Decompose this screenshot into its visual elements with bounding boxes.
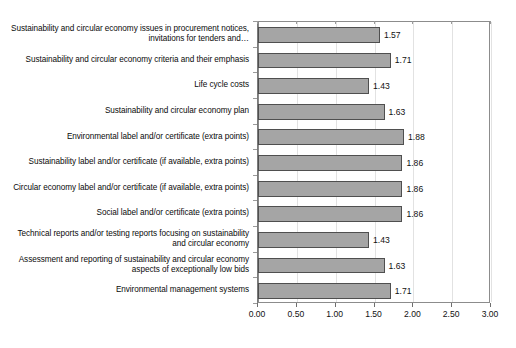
category-label: Environmental label and/or certificate (… — [8, 124, 249, 150]
bar[interactable] — [258, 78, 369, 94]
category-label-text: Technical reports and/or testing reports… — [8, 229, 249, 248]
bar-row[interactable]: 1.86 — [258, 181, 489, 197]
y-tick-mark — [253, 47, 257, 48]
category-label: Technical reports and/or testing reports… — [8, 226, 249, 252]
top-tick-mark — [335, 21, 336, 24]
plot-area: 1.571.711.431.631.881.861.861.861.431.63… — [257, 21, 490, 303]
x-tick-label: 0.00 — [249, 309, 266, 319]
top-tick-mark — [490, 21, 491, 24]
bar-row[interactable]: 1.57 — [258, 27, 489, 43]
x-tick-label: 2.00 — [404, 309, 421, 319]
category-label-text: Sustainability label and/or certificate … — [8, 157, 249, 167]
x-tick-label: 2.50 — [443, 309, 460, 319]
bar-value-label: 1.86 — [402, 158, 423, 168]
left-tick-marks — [253, 21, 258, 303]
top-tick-mark — [412, 21, 413, 24]
bar-row[interactable]: 1.86 — [258, 155, 489, 171]
category-label-text: Circular economy label and/or certificat… — [8, 183, 249, 193]
bar-row[interactable]: 1.63 — [258, 258, 489, 274]
category-label-text: Environmental label and/or certificate (… — [8, 132, 249, 142]
category-label: Sustainability label and/or certificate … — [8, 149, 249, 175]
category-label: Life cycle costs — [8, 72, 249, 98]
top-tick-mark — [374, 21, 375, 24]
x-tick-label: 0.50 — [287, 309, 304, 319]
category-label: Sustainability and circular economy issu… — [8, 21, 249, 47]
bars-layer: 1.571.711.431.631.881.861.861.861.431.63… — [258, 22, 489, 302]
bar-row[interactable]: 1.71 — [258, 53, 489, 69]
bar-value-label: 1.57 — [380, 30, 401, 40]
bar-value-label: 1.43 — [369, 235, 390, 245]
bar-value-label: 1.63 — [385, 261, 406, 271]
y-tick-mark — [253, 252, 257, 253]
bar[interactable] — [258, 155, 402, 171]
category-label: Assessment and reporting of sustainabili… — [8, 252, 249, 278]
y-tick-mark — [253, 200, 257, 201]
bar-row[interactable]: 1.43 — [258, 78, 489, 94]
bar[interactable] — [258, 206, 402, 222]
category-label: Social label and/or certificate (extra p… — [8, 200, 249, 226]
category-label-text: Sustainability and circular economy crit… — [8, 55, 249, 65]
bar[interactable] — [258, 53, 391, 69]
category-label-text: Life cycle costs — [8, 80, 249, 90]
x-axis-labels: 0.000.501.001.502.002.503.00 — [257, 309, 490, 327]
bar-row[interactable]: 1.86 — [258, 206, 489, 222]
category-axis: Sustainability and circular economy issu… — [8, 21, 253, 303]
x-tick-mark — [374, 303, 375, 307]
bar-value-label: 1.86 — [402, 209, 423, 219]
x-tick-mark — [335, 303, 336, 307]
bar-chart: Sustainability and circular economy issu… — [0, 0, 516, 348]
category-label-text: Assessment and reporting of sustainabili… — [8, 255, 249, 274]
x-tick-label: 1.00 — [326, 309, 343, 319]
bar[interactable] — [258, 27, 380, 43]
y-tick-mark — [253, 72, 257, 73]
x-tick-mark — [257, 303, 258, 307]
y-tick-mark — [253, 277, 257, 278]
bar[interactable] — [258, 129, 404, 145]
category-label-text: Sustainability and circular economy plan — [8, 106, 249, 116]
bar-row[interactable]: 1.88 — [258, 129, 489, 145]
bar-row[interactable]: 1.71 — [258, 283, 489, 299]
bar-row[interactable]: 1.43 — [258, 232, 489, 248]
top-tick-mark — [296, 21, 297, 24]
top-tick-marks — [257, 21, 490, 25]
bar-value-label: 1.63 — [385, 107, 406, 117]
y-tick-mark — [253, 226, 257, 227]
bar-row[interactable]: 1.63 — [258, 104, 489, 120]
gridline-3.00 — [491, 22, 492, 302]
category-label: Circular economy label and/or certificat… — [8, 175, 249, 201]
bar[interactable] — [258, 232, 369, 248]
x-tick-mark — [490, 303, 491, 307]
bar-value-label: 1.88 — [404, 132, 425, 142]
y-tick-mark — [253, 98, 257, 99]
bar[interactable] — [258, 258, 385, 274]
category-label: Sustainability and circular economy plan — [8, 98, 249, 124]
category-label-text: Environmental management systems — [8, 285, 249, 295]
y-tick-mark — [253, 175, 257, 176]
bar-value-label: 1.43 — [369, 81, 390, 91]
bar-value-label: 1.86 — [402, 184, 423, 194]
category-label: Environmental management systems — [8, 277, 249, 303]
top-tick-mark — [451, 21, 452, 24]
y-tick-mark — [253, 149, 257, 150]
y-tick-mark — [253, 21, 257, 22]
x-tick-mark — [412, 303, 413, 307]
x-tick-label: 1.50 — [365, 309, 382, 319]
bar[interactable] — [258, 181, 402, 197]
bar[interactable] — [258, 283, 391, 299]
x-tick-label: 3.00 — [482, 309, 499, 319]
category-label: Sustainability and circular economy crit… — [8, 47, 249, 73]
bar[interactable] — [258, 104, 385, 120]
y-tick-mark — [253, 124, 257, 125]
x-tick-mark — [451, 303, 452, 307]
bar-value-label: 1.71 — [391, 286, 412, 296]
bar-value-label: 1.71 — [391, 55, 412, 65]
category-label-text: Social label and/or certificate (extra p… — [8, 208, 249, 218]
category-label-text: Sustainability and circular economy issu… — [8, 24, 249, 43]
x-tick-mark — [296, 303, 297, 307]
